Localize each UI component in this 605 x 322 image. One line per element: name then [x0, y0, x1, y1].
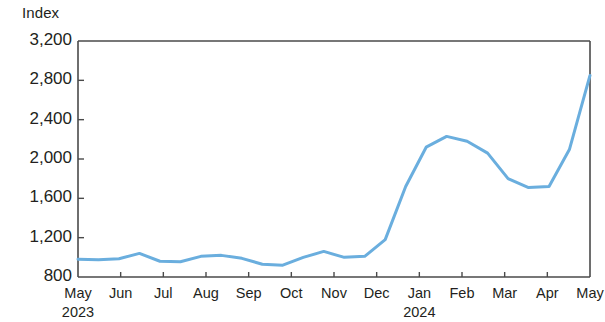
- x-axis-year-label: 2024: [403, 304, 435, 320]
- x-axis-tick-label: Jan: [408, 285, 431, 301]
- plot-area: [0, 0, 605, 322]
- x-axis-tick-label: Nov: [321, 285, 347, 301]
- x-axis-tick-label: Feb: [450, 285, 475, 301]
- data-series-line: [78, 75, 590, 265]
- x-axis-tick-label: Sep: [236, 285, 262, 301]
- x-axis-tick-label: Dec: [364, 285, 390, 301]
- x-axis-tick-label: May: [64, 285, 91, 301]
- axis-lines: [78, 41, 590, 277]
- x-axis-tick-label: Aug: [193, 285, 219, 301]
- x-axis-year-label: 2023: [62, 304, 94, 320]
- x-axis-tick-label: May: [576, 285, 603, 301]
- axis-ticks: [78, 80, 547, 277]
- x-axis-tick-label: Jun: [109, 285, 132, 301]
- x-axis-tick-label: Mar: [492, 285, 517, 301]
- x-axis-tick-label: Jul: [154, 285, 173, 301]
- index-line-chart: Index 8001,2001,6002,0002,4002,8003,200 …: [0, 0, 605, 322]
- x-axis-tick-label: Oct: [280, 285, 303, 301]
- x-axis-tick-label: Apr: [536, 285, 559, 301]
